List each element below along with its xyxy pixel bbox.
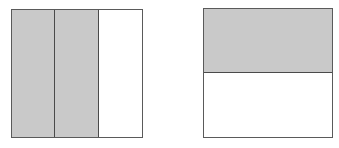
left-square-part-3-unshaded bbox=[99, 10, 142, 137]
left-square-divider-2 bbox=[98, 10, 99, 137]
left-square-divider-1 bbox=[54, 10, 55, 137]
left-square-figure bbox=[11, 9, 143, 138]
right-square-part-2-unshaded bbox=[204, 73, 332, 137]
right-square-divider bbox=[204, 72, 332, 73]
right-square-part-1-shaded bbox=[204, 9, 332, 73]
left-square-part-1-shaded bbox=[12, 10, 55, 137]
right-square-figure bbox=[203, 8, 333, 138]
left-square-part-2-shaded bbox=[55, 10, 99, 137]
